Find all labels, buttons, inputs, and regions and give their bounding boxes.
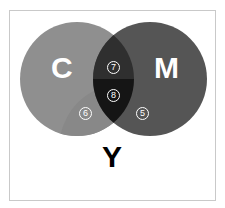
label-y: Y [102,142,122,172]
venn-diagram [0,0,225,208]
region-number-7: 7 [107,61,120,74]
label-m: M [154,53,179,83]
region-number-8: 8 [107,89,120,102]
region-number-6: 6 [79,107,92,120]
region-number-5: 5 [136,107,149,120]
label-c: C [51,53,73,83]
